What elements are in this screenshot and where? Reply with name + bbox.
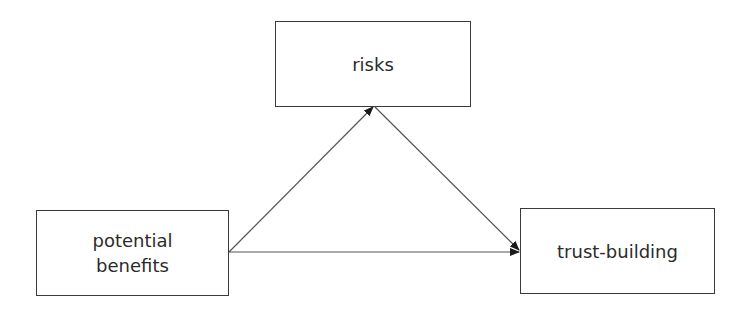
node-potential-benefits-label-line-1: potential: [92, 228, 172, 253]
node-trust-building-label: trust-building: [557, 239, 678, 264]
diagram-canvas: risks potential benefits trust-building: [0, 0, 746, 316]
node-risks: risks: [275, 21, 471, 107]
node-potential-benefits-label-line-2: benefits: [92, 253, 172, 278]
edge-benefits-to-risks: [229, 107, 373, 252]
node-risks-label: risks: [352, 52, 394, 77]
edge-risks-to-trust: [375, 107, 519, 250]
node-trust-building: trust-building: [520, 208, 715, 294]
node-potential-benefits: potential benefits: [36, 210, 229, 296]
